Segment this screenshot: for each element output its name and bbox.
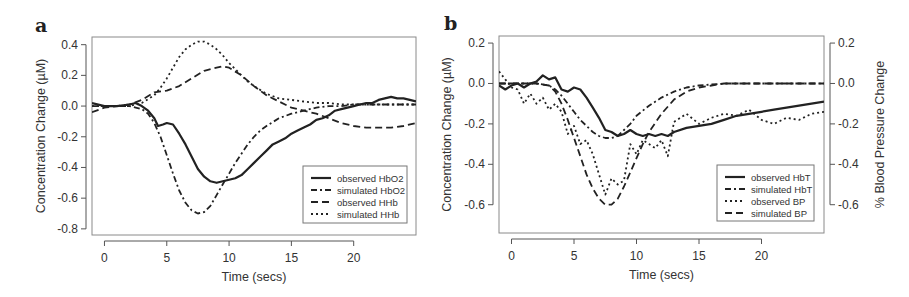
legend-label: simulated HHb <box>337 209 399 220</box>
series-line-observed-hhb <box>92 66 416 127</box>
panel-b: b0.20.0-0.2-0.4-0.6Concentration Change … <box>440 12 887 282</box>
y-tick-label: 0.2 <box>468 36 485 50</box>
x-axis: 05101520 <box>101 241 361 265</box>
panel-a: a0.40.20.0-0.2-0.4-0.6-0.8Concentration … <box>34 14 416 284</box>
y-tick-label: -0.4 <box>464 157 485 171</box>
y-axis-title: Concentration Change (µM) <box>440 57 454 212</box>
legend-label: simulated BP <box>751 208 807 219</box>
x-tick-label: 5 <box>571 249 578 263</box>
legend: observed HbO2simulated HbO2observed HHbs… <box>303 166 407 223</box>
x-tick-label: 5 <box>163 251 170 265</box>
legend-label: observed HbO2 <box>337 173 404 184</box>
y-tick-label: 0.2 <box>61 68 78 82</box>
legend-label: simulated HbO2 <box>337 185 405 196</box>
legend-label: simulated HbT <box>751 184 812 195</box>
x-tick-label: 10 <box>222 251 236 265</box>
x-axis: 05101520 <box>508 239 768 263</box>
y-right-tick-label: 0.2 <box>838 36 855 50</box>
y-axis-left: 0.40.20.0-0.2-0.4-0.6-0.8 <box>57 38 86 236</box>
x-tick-label: 0 <box>101 251 108 265</box>
x-axis-title: Time (secs) <box>629 268 694 282</box>
series-line-simulated-hbt <box>499 84 824 139</box>
y-tick-label: -0.2 <box>464 117 485 131</box>
x-tick-label: 10 <box>630 249 644 263</box>
y-tick-label: 0.4 <box>61 38 78 52</box>
panel-label: a <box>35 14 47 36</box>
x-tick-label: 15 <box>692 249 706 263</box>
x-tick-label: 20 <box>755 249 769 263</box>
y-axis-right: 0.20.0-0.2-0.4-0.6 <box>830 36 859 212</box>
y-axis-left: 0.20.0-0.2-0.4-0.6 <box>464 36 493 212</box>
legend-label: observed HbT <box>751 172 811 183</box>
figure: a0.40.20.0-0.2-0.4-0.6-0.8Concentration … <box>0 0 909 297</box>
x-tick-label: 0 <box>508 249 515 263</box>
y-right-tick-label: -0.4 <box>838 157 859 171</box>
y-tick-label: -0.6 <box>57 191 78 205</box>
y-tick-label: -0.8 <box>57 222 78 236</box>
panel-label: b <box>444 12 457 34</box>
y-tick-label: -0.2 <box>57 130 78 144</box>
y-tick-label: -0.4 <box>57 160 78 174</box>
y-tick-label: 0.0 <box>468 76 485 90</box>
x-tick-label: 20 <box>347 251 361 265</box>
y-right-tick-label: -0.6 <box>838 198 859 212</box>
legend-label: observed BP <box>751 196 805 207</box>
x-tick-label: 15 <box>285 251 299 265</box>
x-axis-title: Time (secs) <box>222 270 287 284</box>
y-axis-title: Concentration Change (µM) <box>34 59 48 214</box>
y-right-tick-label: -0.2 <box>838 117 859 131</box>
y-tick-label: -0.6 <box>464 198 485 212</box>
y-tick-label: 0.0 <box>61 99 78 113</box>
legend-label: observed HHb <box>337 197 398 208</box>
series-line-simulated-hhb <box>92 42 416 107</box>
y-right-tick-label: 0.0 <box>838 76 855 90</box>
legend: observed HbTsimulated HbTobserved BPsimu… <box>717 165 814 221</box>
y-axis-right-title: % Blood Pressure Change <box>873 61 887 208</box>
